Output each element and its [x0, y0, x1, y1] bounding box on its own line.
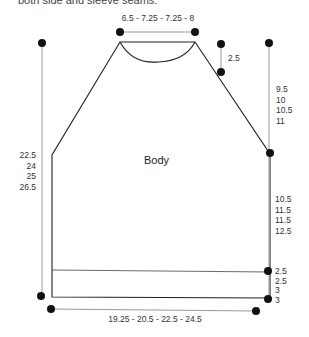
ribbing-line: [52, 270, 270, 272]
shoulder-drop-dot-bottom: [217, 68, 225, 76]
ribbing-dot-bottom: [264, 295, 272, 303]
schematic-drawing: [0, 0, 309, 337]
piece-label: Body: [144, 154, 169, 166]
bottom-width-dot-right: [252, 307, 260, 315]
bottom-width-dot-left: [47, 305, 55, 313]
neckline-curve: [120, 42, 195, 62]
shoulder-drop-dot-top: [217, 40, 225, 48]
neck-width-label: 6.5 - 7.25 - 7.25 - 8: [122, 13, 194, 24]
side-length-labels: 10.5 11.5 11.5 12.5: [275, 194, 292, 236]
ribbing-labels: 2.5 2.5 3 3: [275, 267, 287, 305]
shoulder-drop-label: 2.5: [228, 53, 240, 64]
neck-width-dot-right: [191, 28, 199, 36]
armhole-dot-top: [265, 39, 273, 47]
body-outline: [52, 42, 270, 298]
neck-width-dot-left: [116, 28, 124, 36]
armhole-depth-labels: 9.5 10 10.5 11: [276, 84, 293, 126]
total-length-dot-top: [38, 39, 46, 47]
total-length-labels: 22.5 24 25 26.5: [10, 150, 36, 192]
bottom-width-label: 19.25 - 20.5 - 22.5 - 24.5: [108, 314, 202, 325]
armhole-dot-bottom: [266, 149, 274, 157]
ribbing-dot-top: [264, 267, 272, 275]
total-length-dot-bottom: [37, 292, 45, 300]
